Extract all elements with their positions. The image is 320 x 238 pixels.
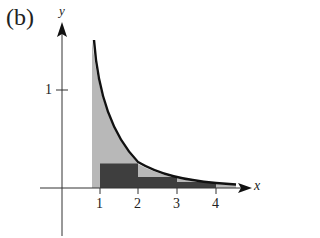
rectangle-1 <box>100 164 138 189</box>
rectangle-2 <box>138 177 177 188</box>
y-axis-label: y <box>59 3 65 19</box>
x-tick-label-2: 2 <box>134 196 141 212</box>
y-tick-label-1: 1 <box>45 82 52 98</box>
x-tick-label-3: 3 <box>173 196 180 212</box>
x-axis-label: x <box>254 178 260 194</box>
x-tick-label-4: 4 <box>212 196 219 212</box>
x-tick-label-1: 1 <box>96 196 103 212</box>
